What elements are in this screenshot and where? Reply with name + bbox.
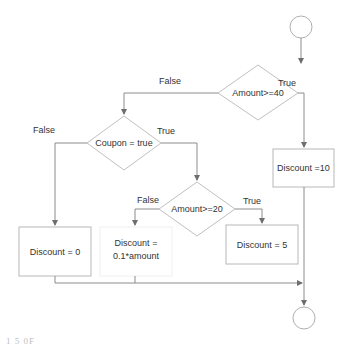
figure-caption-fragment: 1 5 0F	[6, 336, 35, 346]
edge-d1-true	[298, 93, 304, 147]
decision-amount-20-label: Amount>=20	[171, 204, 223, 214]
process-discount-10pct-line2: 0.1*amount	[113, 251, 160, 261]
edge-d2-true	[161, 143, 197, 180]
decision-coupon-label: Coupon = true	[95, 138, 152, 148]
decision-amount-40-label: Amount>=40	[232, 88, 284, 98]
edge-d3-false	[135, 209, 159, 225]
process-discount-10-label: Discount =10	[277, 163, 330, 173]
process-discount-5-label: Discount = 5	[237, 240, 287, 250]
edge-d1-false-label: False	[159, 76, 181, 86]
edge-d2-false	[55, 143, 87, 225]
process-discount-0-label: Discount = 0	[30, 247, 80, 257]
start-node	[290, 16, 312, 38]
flowchart-canvas: Amount>=40 True False Coupon = true Fals…	[0, 0, 352, 347]
process-discount-10pct-line1: Discount =	[115, 238, 158, 248]
end-node	[293, 307, 315, 329]
edge-d3-false-label: False	[137, 195, 159, 205]
edge-d2-false-label: False	[33, 125, 55, 135]
edge-d2-true-label: True	[157, 126, 175, 136]
edge-d1-false	[124, 93, 218, 114]
edge-d3-true	[235, 209, 262, 223]
edge-d1-true-label: True	[278, 78, 296, 88]
edge-d3-true-label: True	[243, 196, 261, 206]
